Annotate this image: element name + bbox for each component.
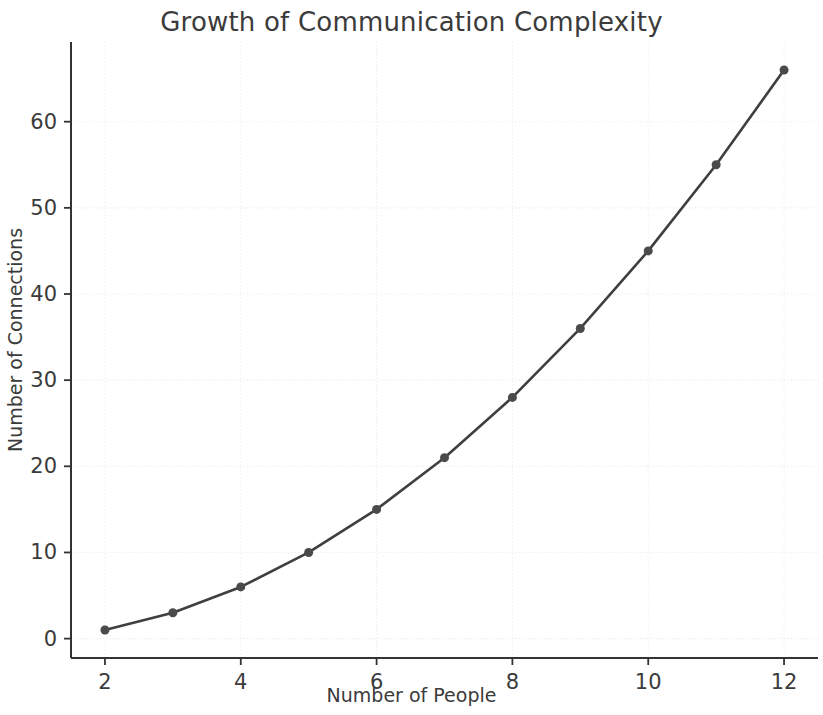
data-point-marker: [100, 626, 109, 635]
x-axis-label: Number of People: [0, 684, 823, 706]
data-point-marker: [644, 246, 653, 255]
data-point-marker: [780, 66, 789, 75]
data-point-marker: [712, 160, 721, 169]
data-point-marker: [576, 324, 585, 333]
y-axis-label: Number of Connections: [4, 228, 26, 452]
data-point-marker: [372, 505, 381, 514]
data-point-marker: [440, 453, 449, 462]
axis-ticks: [64, 122, 784, 665]
data-line: [105, 70, 784, 630]
data-point-marker: [508, 393, 517, 402]
data-point-marker: [304, 548, 313, 557]
chart-figure: Growth of Communication Complexity 01020…: [0, 0, 823, 715]
gridlines: [71, 42, 818, 658]
data-point-marker: [236, 582, 245, 591]
plot-area: [0, 0, 823, 715]
data-markers: [100, 66, 788, 635]
data-point-marker: [168, 608, 177, 617]
axis-spines: [71, 42, 818, 658]
y-axis-label-wrapper: Number of Connections: [0, 0, 30, 680]
